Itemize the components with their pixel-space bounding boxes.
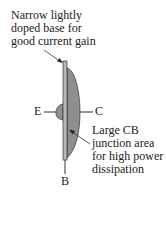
base-strip [63, 61, 67, 160]
emitter-region [56, 104, 63, 120]
emitter-label: E [34, 105, 41, 118]
base-callout-line-3: good current gain [11, 35, 96, 48]
base-label: B [61, 175, 69, 188]
collector-label: C [95, 105, 103, 118]
collector-region [67, 68, 80, 158]
arrowhead-icon [57, 58, 63, 63]
junction-callout-line-4: dissipation [92, 163, 144, 176]
